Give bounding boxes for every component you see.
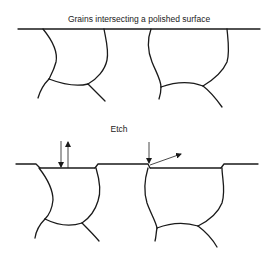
grain-boundary [203,29,229,86]
grain-boundary [82,223,99,241]
grain-boundary [145,168,157,228]
bottom-panel: Etch [16,124,258,247]
etched-surface-profile [16,164,40,168]
grain-etch-diagram: Grains intersecting a polished surface E… [0,0,270,261]
grain-boundary [198,226,217,247]
bottom-panel-title: Etch [110,124,127,134]
grain-boundary [161,83,203,87]
grain-boundary [43,29,56,79]
grain-boundary [82,168,100,223]
grain-boundary [39,168,53,219]
top-panel-title: Grains intersecting a polished surface [68,14,210,24]
grain-boundary [88,29,108,84]
top-panel: Grains intersecting a polished surface [18,14,260,107]
grain-boundary [148,29,161,87]
scattered-light-arrow [150,154,181,165]
etched-surface-profile [221,164,258,168]
grain-boundary [198,168,224,226]
grain-boundary [159,87,161,99]
grain-boundary [88,84,105,101]
grain-boundary [35,219,45,238]
grain-boundary [157,224,198,228]
grain-boundary [155,228,157,241]
etched-surface-profile [95,164,150,168]
grain-boundary [203,86,222,107]
grain-boundary [38,79,49,98]
grain-boundary [45,219,82,225]
grain-boundary [49,79,88,85]
